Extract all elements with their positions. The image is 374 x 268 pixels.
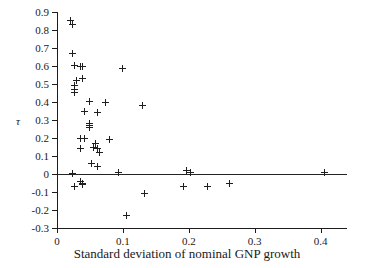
data-point — [79, 75, 86, 82]
plot-area — [57, 12, 347, 228]
data-point — [141, 190, 148, 197]
data-point — [81, 135, 88, 142]
data-point — [119, 65, 126, 72]
y-axis-line — [57, 12, 58, 229]
data-point — [204, 183, 211, 190]
scatter-plot-figure: -0.3-0.2-0.100.10.20.30.40.50.60.70.80.9… — [0, 0, 374, 268]
data-point — [96, 149, 103, 156]
x-axis-line — [57, 228, 347, 229]
data-point — [71, 89, 78, 96]
data-point — [88, 160, 95, 167]
y-tick-label: -0.2 — [0, 205, 49, 216]
y-tick-label: 0.7 — [0, 43, 49, 54]
data-point — [71, 62, 78, 69]
data-point — [81, 108, 88, 115]
y-tick — [52, 156, 57, 157]
data-point — [71, 183, 78, 190]
data-point — [77, 145, 84, 152]
y-tick-label: 0.4 — [0, 97, 49, 108]
data-point — [73, 77, 80, 84]
y-tick — [52, 192, 57, 193]
data-point — [79, 181, 86, 188]
zero-reference-line — [57, 174, 347, 175]
y-tick-label: 0 — [0, 169, 49, 180]
y-tick — [52, 138, 57, 139]
y-tick — [52, 66, 57, 67]
data-point — [69, 21, 76, 28]
data-point — [77, 63, 84, 70]
x-tick — [57, 228, 58, 233]
data-point — [69, 50, 76, 57]
y-tick-label: 0.3 — [0, 115, 49, 126]
data-point — [67, 17, 74, 24]
data-point — [102, 99, 109, 106]
y-tick — [52, 102, 57, 103]
y-tick-label: -0.3 — [0, 223, 49, 234]
y-tick — [52, 120, 57, 121]
data-point — [86, 98, 93, 105]
data-point — [106, 136, 113, 143]
data-point — [94, 109, 101, 116]
y-tick — [52, 210, 57, 211]
y-tick-label: 0.5 — [0, 79, 49, 90]
y-tick-label: 0.1 — [0, 151, 49, 162]
data-point — [79, 63, 86, 70]
y-tick-label: 0.8 — [0, 25, 49, 36]
data-point — [86, 122, 93, 129]
data-point — [71, 82, 78, 89]
x-tick — [255, 228, 256, 233]
data-point — [77, 178, 84, 185]
y-tick — [52, 84, 57, 85]
data-point — [226, 180, 233, 187]
y-axis-title: τ — [16, 116, 20, 127]
data-point — [94, 145, 101, 152]
x-tick — [123, 228, 124, 233]
y-tick — [52, 30, 57, 31]
data-point — [94, 163, 101, 170]
y-tick-label: 0.2 — [0, 133, 49, 144]
x-tick — [189, 228, 190, 233]
y-tick — [52, 174, 57, 175]
x-tick — [321, 228, 322, 233]
data-point — [139, 102, 146, 109]
y-tick — [52, 12, 57, 13]
y-tick-label: 0.6 — [0, 61, 49, 72]
y-tick — [52, 48, 57, 49]
data-point — [77, 135, 84, 142]
y-tick-label: -0.1 — [0, 187, 49, 198]
data-point — [86, 124, 93, 131]
data-point — [123, 212, 130, 219]
x-axis-title: Standard deviation of nominal GNP growth — [0, 246, 374, 261]
data-point — [180, 183, 187, 190]
data-point — [79, 180, 86, 187]
data-point — [92, 140, 99, 147]
data-point — [86, 120, 93, 127]
data-point — [71, 86, 78, 93]
y-tick-label: 0.9 — [0, 7, 49, 18]
data-point — [90, 144, 97, 151]
